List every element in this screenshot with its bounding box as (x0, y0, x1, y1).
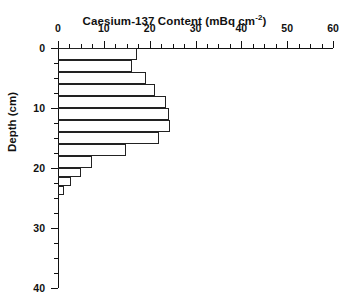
x-axis-tick-label: 30 (190, 22, 202, 34)
bar (58, 60, 132, 72)
y-axis-tick (51, 288, 58, 289)
x-axis-minor-tick (138, 44, 139, 48)
chart-title: Caesium-137 Content (mBq cm-2) (0, 13, 349, 27)
bar (58, 144, 126, 156)
x-axis-tick (333, 41, 334, 48)
x-axis-minor-tick (161, 44, 162, 48)
y-axis-minor-tick (54, 273, 58, 274)
y-axis-tick-label: 10 (33, 102, 45, 114)
x-axis-tick-label: 50 (281, 22, 293, 34)
y-axis-tick-label: 40 (33, 282, 45, 294)
x-axis-minor-tick (184, 44, 185, 48)
y-axis-tick-label: 0 (39, 42, 45, 54)
x-axis-tick (241, 41, 242, 48)
bar (58, 96, 166, 108)
bar (58, 168, 81, 177)
x-axis-minor-tick (299, 44, 300, 48)
x-axis-minor-tick (264, 44, 265, 48)
bar (58, 177, 71, 186)
x-axis-minor-tick (207, 44, 208, 48)
x-axis-tick (196, 41, 197, 48)
x-axis-tick-label: 10 (98, 22, 110, 34)
chart-title-tail: ) (263, 15, 267, 27)
x-axis-minor-tick (230, 44, 231, 48)
y-axis-tick-label: 20 (33, 162, 45, 174)
y-axis-tick-label: 30 (33, 222, 45, 234)
y-axis-title: Depth (cm) (6, 92, 18, 152)
x-axis-tick (150, 41, 151, 48)
y-axis-tick (51, 108, 58, 109)
y-axis-tick (51, 168, 58, 169)
x-axis-minor-tick (173, 44, 174, 48)
x-axis-minor-tick (310, 44, 311, 48)
bar (58, 48, 137, 60)
x-axis-tick-label: 0 (55, 22, 61, 34)
y-axis-tick (51, 228, 58, 229)
x-axis-tick-label: 40 (235, 22, 247, 34)
x-axis-tick-label: 20 (144, 22, 156, 34)
bar (58, 120, 170, 132)
bar (58, 186, 64, 195)
x-axis-tick (104, 41, 105, 48)
x-axis-minor-tick (218, 44, 219, 48)
chart-root: Caesium-137 Content (mBq cm-2) 010203040… (0, 0, 349, 304)
x-axis-minor-tick (276, 44, 277, 48)
x-axis-minor-tick (322, 44, 323, 48)
chart-title-superscript: -2 (255, 13, 262, 22)
x-axis-minor-tick (253, 44, 254, 48)
x-axis-tick (287, 41, 288, 48)
bar (58, 72, 146, 84)
y-axis-minor-tick (54, 198, 58, 199)
y-axis-minor-tick (54, 243, 58, 244)
y-axis-minor-tick (54, 258, 58, 259)
y-axis-minor-tick (54, 213, 58, 214)
plot-area: 0102030405060010203040 (58, 48, 333, 288)
y-axis-tick (51, 48, 58, 49)
bar (58, 132, 159, 144)
bar (58, 84, 155, 96)
x-axis-tick (58, 41, 59, 48)
bar (58, 108, 169, 120)
bar (58, 156, 92, 168)
x-axis-tick-label: 60 (327, 22, 339, 34)
